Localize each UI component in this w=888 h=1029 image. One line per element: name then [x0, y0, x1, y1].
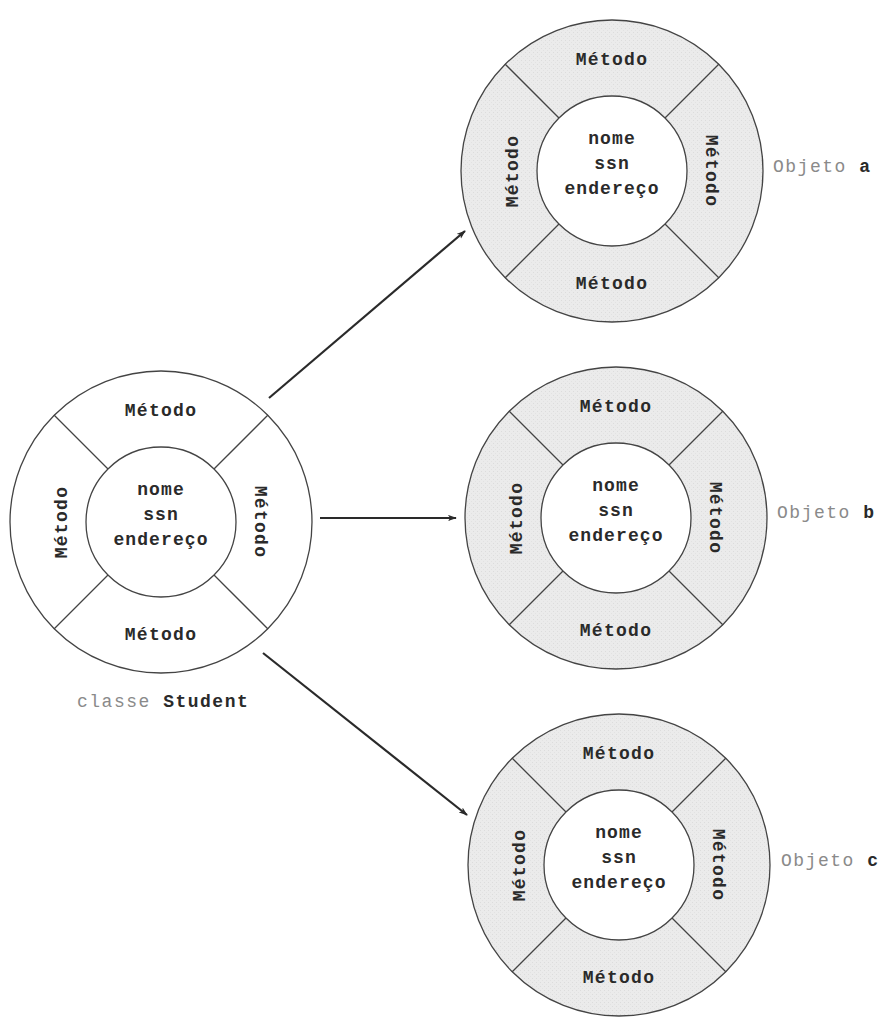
object-c-label: Objeto c — [781, 851, 879, 871]
class-label: classe Student — [77, 692, 249, 712]
attribute-endereco: endereço — [571, 873, 666, 893]
method-top: Método — [576, 50, 649, 70]
method-top: Método — [583, 744, 656, 764]
attribute-endereco: endereço — [564, 179, 659, 199]
object-c-node: Método Método Método Método nome ssn end… — [468, 714, 770, 1016]
attribute-nome: nome — [592, 476, 640, 496]
method-left: Método — [503, 135, 523, 208]
method-left: Método — [510, 829, 530, 902]
object-b-label: Objeto b — [777, 503, 875, 523]
attribute-ssn: ssn — [143, 505, 179, 525]
instantiation-arrow-a — [269, 231, 465, 398]
object-label-name: c — [867, 851, 879, 871]
method-bottom: Método — [125, 625, 198, 645]
object-b-node: Método Método Método Método nome ssn end… — [465, 367, 767, 669]
method-left: Método — [52, 486, 72, 559]
attribute-nome: nome — [595, 823, 643, 843]
object-a-node: Método Método Método Método nome ssn end… — [461, 20, 763, 322]
attribute-endereco: endereço — [568, 526, 663, 546]
diagram-canvas: Método Método Método Método nome ssn end… — [0, 0, 888, 1029]
class-object-diagram: Método Método Método Método nome ssn end… — [0, 0, 888, 1029]
attribute-ssn: ssn — [601, 848, 637, 868]
object-label-prefix: Objeto — [773, 157, 847, 177]
attribute-endereco: endereço — [113, 530, 208, 550]
instantiation-arrow-c — [263, 653, 467, 815]
method-right: Método — [701, 135, 721, 208]
method-left: Método — [507, 482, 527, 555]
class-student-node: Método Método Método Método nome ssn end… — [10, 371, 312, 673]
object-a-label: Objeto a — [773, 157, 871, 177]
method-bottom: Método — [580, 621, 653, 641]
object-label-prefix: Objeto — [777, 503, 851, 523]
method-bottom: Método — [576, 274, 649, 294]
attribute-nome: nome — [137, 480, 185, 500]
attribute-nome: nome — [588, 129, 636, 149]
attribute-ssn: ssn — [598, 501, 634, 521]
method-right: Método — [705, 482, 725, 555]
class-label-prefix: classe — [77, 692, 151, 712]
method-bottom: Método — [583, 968, 656, 988]
method-top: Método — [125, 401, 198, 421]
object-label-name: b — [863, 503, 875, 523]
object-label-prefix: Objeto — [781, 851, 855, 871]
object-label-name: a — [859, 157, 871, 177]
attribute-ssn: ssn — [594, 154, 630, 174]
class-label-name: Student — [163, 692, 249, 712]
method-top: Método — [580, 397, 653, 417]
method-right: Método — [250, 486, 270, 559]
method-right: Método — [708, 829, 728, 902]
